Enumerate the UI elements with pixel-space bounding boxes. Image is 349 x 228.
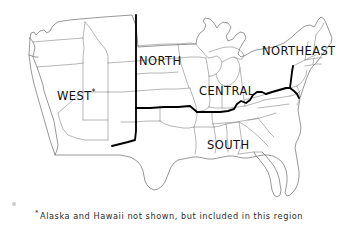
region-label-north: NORTH xyxy=(139,56,181,68)
region-boundary-lines xyxy=(112,15,299,146)
western-state-borders xyxy=(33,22,136,140)
pacific-coast-detail xyxy=(29,38,58,155)
region-label-west-text: WEST xyxy=(57,89,92,103)
scan-artifact-speck xyxy=(12,202,16,206)
region-label-west: WEST* xyxy=(57,89,96,102)
us-region-map-figure: WEST* NORTH CENTRAL SOUTH NORTHEAST *Ala… xyxy=(0,0,349,228)
national-outline xyxy=(29,15,332,196)
us-map-graphic xyxy=(0,0,349,228)
footnote: *Alaska and Hawaii not shown, but includ… xyxy=(35,210,303,220)
region-label-north-text: NORTH xyxy=(139,54,181,68)
region-label-west-marker: * xyxy=(92,88,96,97)
region-label-northeast-text: NORTHEAST xyxy=(262,44,336,58)
region-label-central-text: CENTRAL xyxy=(199,84,255,98)
footnote-text: Alaska and Hawaii not shown, but include… xyxy=(40,211,303,221)
region-label-south: SOUTH xyxy=(207,140,249,152)
footnote-marker: * xyxy=(35,209,39,217)
florida-outline xyxy=(254,152,281,197)
region-label-northeast: NORTHEAST xyxy=(262,46,336,58)
region-label-central: CENTRAL xyxy=(199,86,255,98)
region-label-south-text: SOUTH xyxy=(207,138,249,152)
great-lakes-state-borders xyxy=(178,43,266,112)
